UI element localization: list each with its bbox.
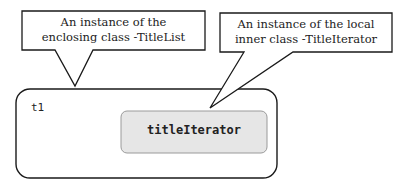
outer-object-label: t1 [31, 101, 44, 114]
callout-2-line-2: inner class -TitleIterator [220, 32, 392, 47]
callout-enclosing-class: An instance of the enclosing class -Titl… [22, 15, 205, 45]
callout-1-line-2: enclosing class -TitleList [22, 30, 205, 45]
inner-object-label: titleIterator [121, 123, 267, 137]
callout-inner-class: An instance of the local inner class -Ti… [220, 17, 392, 47]
callout-1-line-1: An instance of the [22, 15, 205, 30]
callout-2-line-1: An instance of the local [220, 17, 392, 32]
diagram-canvas: An instance of the enclosing class -Titl… [0, 0, 405, 187]
